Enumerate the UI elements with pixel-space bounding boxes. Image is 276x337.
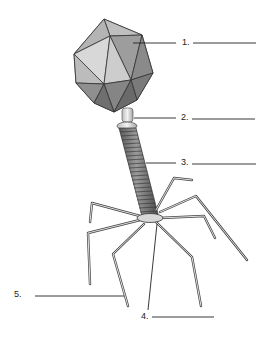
- label-number-4: 4.: [141, 312, 149, 321]
- tail-sheath: [119, 128, 158, 216]
- label-number-1: 1.: [182, 38, 190, 47]
- answer-blanks: [152, 43, 256, 317]
- capsid-head: [74, 19, 153, 112]
- label-number-3: 3.: [181, 158, 189, 167]
- leader-line-4: [148, 224, 157, 310]
- base-plate: [137, 214, 163, 223]
- tail-fibers: [88, 178, 247, 306]
- bacteriophage-diagram: 1. 2. 3. 4. 5.: [0, 0, 276, 337]
- neck: [122, 108, 133, 122]
- label-number-5: 5.: [14, 290, 22, 299]
- label-number-2: 2.: [181, 113, 189, 122]
